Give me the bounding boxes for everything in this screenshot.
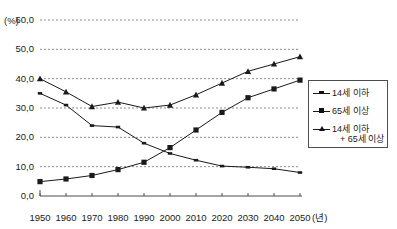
data-point-marker	[245, 95, 250, 100]
legend-item-1: 65세 이상	[313, 106, 369, 116]
data-point-marker	[63, 89, 69, 95]
y-axis-tick-label: 10,0	[0, 162, 34, 172]
data-point-marker	[89, 173, 94, 178]
data-point-marker	[193, 127, 198, 132]
data-point-marker	[115, 167, 120, 172]
x-axis-tick-label: 2000	[156, 213, 184, 223]
x-axis-tick-label: 1970	[78, 213, 106, 223]
data-point-marker	[194, 159, 198, 162]
data-point-marker	[115, 99, 121, 105]
y-axis-tick-label: 40,0	[0, 74, 34, 84]
data-point-marker	[193, 92, 199, 98]
data-point-marker	[142, 142, 146, 145]
data-point-marker	[116, 126, 120, 129]
y-axis-tick-label: 0,0	[0, 191, 34, 201]
legend-item-2: 14세 이하 + 65세 이상	[313, 124, 384, 144]
x-axis-tick-label: 2040	[260, 213, 288, 223]
data-point-marker	[219, 80, 225, 86]
data-point-marker	[246, 166, 250, 169]
y-axis-tick-label: 60,0	[0, 15, 34, 25]
data-point-marker	[37, 179, 42, 184]
data-point-marker	[167, 102, 173, 108]
legend-marker-triangle-icon	[313, 124, 330, 134]
data-point-marker	[63, 176, 68, 181]
legend-item-0: 14세 이하	[313, 88, 369, 98]
data-point-marker	[64, 104, 68, 107]
y-axis-tick-label: 20,0	[0, 132, 34, 142]
legend-label-1: 65세 이상	[332, 106, 369, 116]
x-axis-tick-label: 2050	[286, 213, 314, 223]
data-point-marker	[219, 110, 224, 115]
x-axis-unit-label: (년)	[312, 213, 327, 223]
data-point-marker	[90, 124, 94, 127]
series-line-2	[40, 57, 300, 108]
data-point-marker	[220, 165, 224, 168]
x-axis-tick-label: 1950	[26, 213, 54, 223]
data-point-marker	[297, 53, 303, 59]
legend-marker-square-icon	[313, 106, 330, 116]
data-point-marker	[38, 92, 42, 95]
legend-marker-small-dash-icon	[313, 88, 330, 98]
legend-label-2: 14세 이하 + 65세 이상	[332, 124, 384, 144]
data-point-marker	[298, 171, 302, 174]
data-point-marker	[297, 78, 302, 83]
x-axis-tick-label: 2020	[208, 213, 236, 223]
data-point-marker	[37, 75, 43, 81]
x-axis-tick-label: 2010	[182, 213, 210, 223]
x-axis-tick-label: 1980	[104, 213, 132, 223]
x-axis-tick-label: 1960	[52, 213, 80, 223]
y-axis-tick-label: 30,0	[0, 103, 34, 113]
chart-container: (%) 60,050,040,030,020,010,00,0 19501960…	[0, 0, 397, 229]
y-axis-tick-label: 50,0	[0, 44, 34, 54]
data-point-marker	[141, 160, 146, 165]
data-point-marker	[272, 167, 276, 170]
legend-label-0: 14세 이하	[332, 88, 369, 98]
data-point-marker	[167, 145, 172, 150]
data-point-marker	[271, 86, 276, 91]
data-point-marker	[168, 152, 172, 155]
x-axis-tick-label: 2030	[234, 213, 262, 223]
chart-legend: 14세 이하 65세 이상 14세 이하 + 65세 이상	[308, 80, 388, 148]
x-axis-tick-label: 1990	[130, 213, 158, 223]
